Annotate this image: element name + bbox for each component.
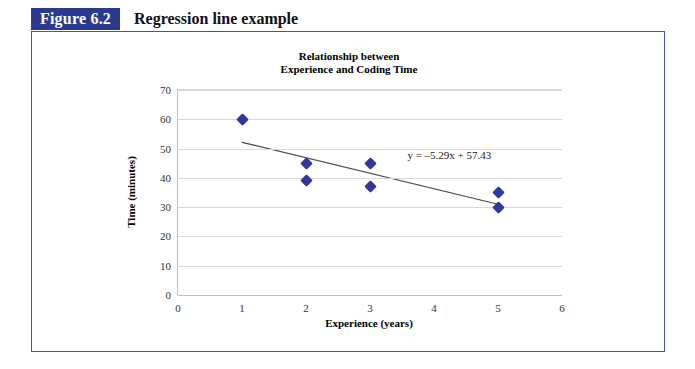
x-tick-label: 6	[559, 302, 565, 314]
y-tick-label: 60	[160, 113, 171, 125]
chart-area: Relationship between Experience and Codi…	[32, 32, 666, 353]
x-axis-line	[178, 295, 562, 296]
x-axis-title-label: Experience (years)	[325, 317, 413, 329]
figure-header: Figure 6.2 Regression line example	[31, 8, 298, 30]
gridline-y	[178, 266, 562, 267]
gridline-y	[178, 90, 562, 91]
y-tick-label: 0	[166, 289, 172, 301]
x-tick-label: 1	[239, 302, 245, 314]
y-tick-label: 40	[160, 172, 171, 184]
y-tick-label: 20	[160, 230, 171, 242]
y-axis-title: Time (minutes)	[124, 89, 138, 294]
x-tick-label: 2	[303, 302, 309, 314]
x-tick-label: 4	[431, 302, 437, 314]
gridline-y	[178, 149, 562, 150]
y-tick-label: 30	[160, 201, 171, 213]
x-tick-label: 3	[367, 302, 373, 314]
y-tick-label: 70	[160, 84, 171, 96]
y-tick-label: 10	[160, 260, 171, 272]
chart-title: Relationship between Experience and Codi…	[32, 50, 666, 76]
plot-area: 0102030405060700123456	[177, 89, 562, 295]
gridline-y	[178, 178, 562, 179]
x-tick-label: 0	[175, 302, 181, 314]
y-axis-title-label: Time (minutes)	[125, 156, 137, 228]
y-tick-label: 50	[160, 143, 171, 155]
figure-frame: Relationship between Experience and Codi…	[31, 31, 665, 352]
regression-equation-annotation: y = –5.29x + 57.43	[407, 149, 491, 161]
x-axis-title: Experience (years)	[177, 317, 561, 329]
figure-caption: Regression line example	[120, 8, 298, 30]
x-tick-label: 5	[495, 302, 501, 314]
chart-title-line-1: Relationship between	[32, 50, 666, 63]
chart-title-line-2: Experience and Coding Time	[32, 63, 666, 76]
figure-number-badge: Figure 6.2	[31, 8, 120, 30]
gridline-y	[178, 236, 562, 237]
